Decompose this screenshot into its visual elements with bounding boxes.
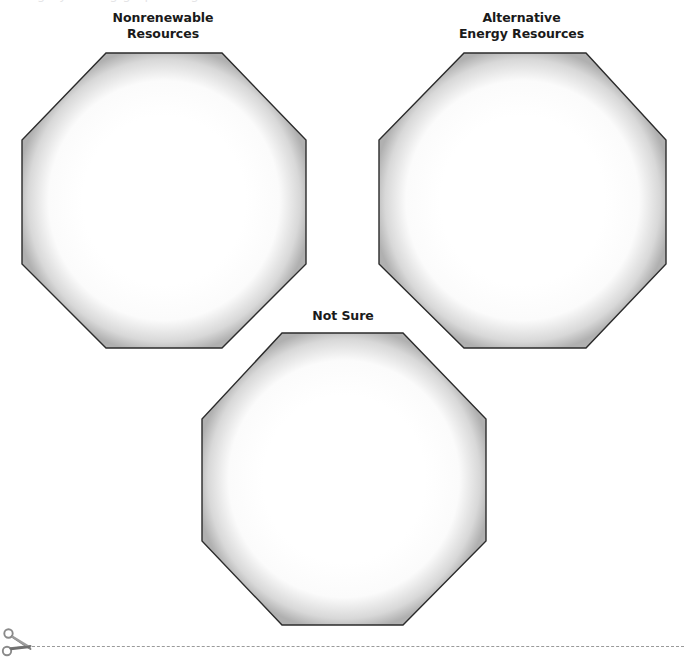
octagon-shape-nonrenewable-resources[interactable]	[20, 52, 308, 350]
octagon-shape-not-sure[interactable]	[200, 332, 488, 628]
octagon-title-alternative-energy-resources: Alternative Energy Resources	[459, 10, 584, 41]
octagon-title-not-sure: Not Sure	[312, 308, 374, 324]
category-octagon-nonrenewable-resources[interactable]: Nonrenewable Resources	[20, 10, 306, 347]
cut-dashed-line	[32, 646, 684, 647]
octagon-shape-alternative-energy-resources[interactable]	[377, 52, 668, 350]
octagon-title-line-1: Not Sure	[312, 308, 374, 324]
octagon-title-line-2: Energy Resources	[459, 26, 584, 42]
cut-here-line	[0, 626, 684, 663]
octagon-title-line-1: Alternative	[459, 10, 584, 26]
worksheet-page: category sorting graphic organizer Nonre…	[0, 0, 684, 663]
octagon-title-line-2: Resources	[112, 26, 213, 42]
octagon-title-line-1: Nonrenewable	[112, 10, 213, 26]
top-cutoff-text-artifact: category sorting graphic organizer	[0, 0, 684, 6]
category-octagon-alternative-energy-resources[interactable]: Alternative Energy Resources	[377, 10, 666, 347]
category-octagon-not-sure[interactable]: Not Sure	[200, 308, 486, 628]
scissors-icon	[0, 626, 36, 660]
octagon-title-nonrenewable-resources: Nonrenewable Resources	[112, 10, 213, 41]
